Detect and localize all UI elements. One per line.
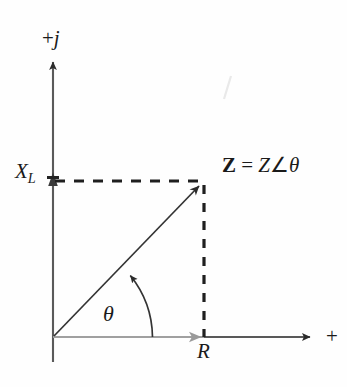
figure-canvas: +j + XL R θ Z = Z∠θ <box>0 0 347 387</box>
resistance-label: R <box>197 341 210 362</box>
horizontal-axis-label: + <box>326 326 338 347</box>
impedance-magnitude-symbol: Z <box>258 153 270 177</box>
scan-artifact-mark <box>224 76 231 99</box>
vertical-axis-plus-sign: + <box>42 26 54 50</box>
impedance-phasor-vector <box>54 186 199 336</box>
impedance-bold-symbol: Z <box>222 153 236 177</box>
impedance-label: Z = Z∠θ <box>222 155 299 176</box>
impedance-equals-sign: = <box>241 153 253 177</box>
phasor-diagram-svg <box>0 0 347 387</box>
reactance-tick-arrow-icon <box>48 173 58 187</box>
vertical-axis-j-symbol: j <box>54 26 60 50</box>
vertical-axis-label: +j <box>42 28 60 49</box>
reactance-label: XL <box>15 161 36 185</box>
reactance-symbol: X <box>15 159 28 183</box>
angle-label: θ <box>103 303 114 325</box>
angle-arc-theta <box>130 276 152 338</box>
impedance-angle-symbol: θ <box>289 153 299 177</box>
horizontal-axis-group <box>53 332 310 342</box>
reactance-subscript: L <box>28 170 36 186</box>
vertical-axis-group <box>47 62 59 362</box>
angle-symbol-icon: ∠ <box>270 153 289 177</box>
